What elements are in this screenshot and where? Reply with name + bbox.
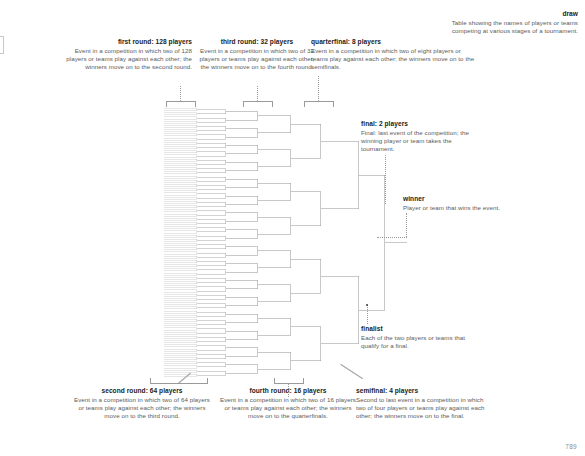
leader-winner-horizontal <box>377 237 407 238</box>
annotation-winner: winner Player or team that wins the even… <box>403 195 553 212</box>
annotation-third-round-definition: Event in a competition in which two of 3… <box>196 47 318 71</box>
annotation-second-round: second round: 64 players Event in a comp… <box>72 387 212 420</box>
annotation-final-definition: Final: last event of the competition; th… <box>361 129 481 153</box>
annotation-final: final: 2 players Final: last event of th… <box>361 120 481 153</box>
annotation-final-term: final: 2 players <box>361 120 481 128</box>
annotation-third-round-term: third round: 32 players <box>196 38 318 46</box>
leader-final <box>385 155 386 204</box>
annotation-winner-term: winner <box>403 195 553 203</box>
annotation-fourth-round-definition: Event in a competition in which two of 1… <box>218 396 358 420</box>
annotation-third-round: third round: 32 players Event in a compe… <box>196 38 318 71</box>
leader-quarterfinal <box>318 76 319 101</box>
leader-semifinal <box>340 364 362 379</box>
annotation-semifinal-definition: Second to last event in a competition in… <box>356 396 488 420</box>
annotation-draw: draw Table showing the names of players … <box>430 10 578 35</box>
annotation-quarterfinal-definition: Event in a competition in which two of e… <box>311 47 479 71</box>
annotation-semifinal: semifinal: 4 players Second to last even… <box>356 387 488 420</box>
annotation-first-round-definition: Event in a competition in which two of 1… <box>62 47 192 71</box>
annotation-finalist: finalist Each of the two players or team… <box>361 325 481 350</box>
annotation-semifinal-term: semifinal: 4 players <box>356 387 488 395</box>
annotation-finalist-term: finalist <box>361 325 481 333</box>
annotation-draw-term: draw <box>430 10 578 18</box>
annotation-quarterfinal-term: quarterfinal: 8 players <box>311 38 479 46</box>
leader-fourth-round <box>288 383 289 397</box>
annotation-first-round-term: first round: 128 players <box>62 38 192 46</box>
brace-fourth-round <box>274 378 304 384</box>
page-crop-mark <box>0 36 4 54</box>
brace-third-round <box>243 101 273 107</box>
annotation-quarterfinal: quarterfinal: 8 players Event in a compe… <box>311 38 479 71</box>
brace-first-round <box>166 101 196 107</box>
annotation-finalist-definition: Each of the two players or teams that qu… <box>361 334 481 350</box>
leader-winner <box>406 213 407 237</box>
annotation-draw-definition: Table showing the names of players or te… <box>430 19 578 35</box>
annotation-winner-definition: Player or team that wins the event. <box>403 204 553 212</box>
brace-second-round <box>150 378 208 384</box>
annotation-first-round: first round: 128 players Event in a comp… <box>62 38 192 71</box>
brace-quarterfinal <box>304 101 334 107</box>
finalist-anchor-dot <box>366 304 368 306</box>
leader-first-round <box>180 86 181 101</box>
leader-finalist <box>367 305 368 324</box>
annotation-second-round-definition: Event in a competition in which two of 6… <box>72 396 212 420</box>
annotation-second-round-term: second round: 64 players <box>72 387 212 395</box>
page-number: 789 <box>565 443 577 450</box>
leader-third-round <box>257 86 258 101</box>
